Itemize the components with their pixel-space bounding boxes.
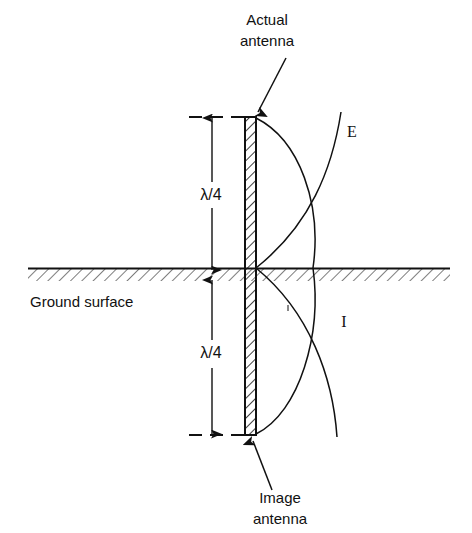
- e-curve-label: E: [347, 123, 357, 140]
- e-field-curve-upper: [256, 112, 341, 268]
- ground-surface-label: Ground surface: [30, 293, 133, 310]
- dimension-label-lower: λ/4: [200, 344, 221, 361]
- e-field-curve-lower: [256, 268, 337, 437]
- i-curve-label: I: [341, 313, 346, 330]
- image-antenna-label-line2: antenna: [253, 510, 308, 527]
- antenna-image-theory-diagram: Ground surface E I: [0, 0, 472, 533]
- actual-antenna-leader-line: [258, 58, 286, 112]
- image-antenna-leader-line: [253, 441, 272, 490]
- current-curve-upper: [256, 118, 315, 268]
- image-antenna-label-line1: Image: [259, 489, 301, 506]
- diagram-canvas: Ground surface E I: [0, 0, 472, 533]
- antenna-bar-group: [245, 117, 256, 435]
- antenna-bar-hatched: [245, 117, 256, 435]
- current-curve-lower: [256, 268, 315, 434]
- actual-antenna-label-line2: antenna: [240, 32, 295, 49]
- ground-surface-group: [28, 269, 450, 282]
- actual-antenna-label-line1: Actual: [246, 11, 288, 28]
- dimension-label-upper: λ/4: [200, 186, 221, 203]
- ground-hatch-band: [28, 269, 450, 281]
